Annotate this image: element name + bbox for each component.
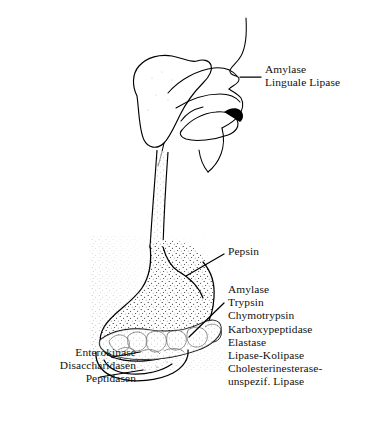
salivary-gland bbox=[133, 55, 211, 147]
pancreatic-enzyme-6: Cholesterinesterase- bbox=[228, 362, 322, 375]
oral-enzyme-0: Amylase bbox=[265, 63, 340, 76]
intestinal-enzyme-0: Enterokinase bbox=[8, 346, 136, 359]
intestinal-enzyme-2: Peptidasen bbox=[8, 372, 136, 385]
pancreatic-enzyme-3: Karboxypeptidase bbox=[228, 323, 322, 336]
oral-enzymes-label: Amylase Linguale Lipase bbox=[265, 63, 340, 89]
esophagus bbox=[150, 150, 168, 248]
oral-enzyme-1: Linguale Lipase bbox=[265, 76, 340, 89]
intestinal-enzymes-label: Enterokinase Disaccharidasen Peptidasen bbox=[8, 346, 136, 386]
stomach-enzyme-label: Pepsin bbox=[228, 245, 259, 258]
pancreatic-enzyme-4: Elastase bbox=[228, 336, 322, 349]
pancreatic-enzyme-1: Trypsin bbox=[228, 296, 322, 309]
stomach-enzyme-0: Pepsin bbox=[228, 245, 259, 258]
pancreatic-enzyme-5: Lipase-Kolipase bbox=[228, 349, 322, 362]
pancreatic-enzyme-0: Amylase bbox=[228, 283, 322, 296]
throat-outline bbox=[158, 128, 223, 172]
pancreatic-enzymes-label: Amylase Trypsin Chymotrypsin Karboxypept… bbox=[228, 283, 322, 389]
pancreatic-enzyme-2: Chymotrypsin bbox=[228, 309, 322, 322]
intestinal-enzyme-1: Disaccharidasen bbox=[8, 359, 136, 372]
pancreatic-enzyme-7: unspezif. Lipase bbox=[228, 375, 322, 388]
